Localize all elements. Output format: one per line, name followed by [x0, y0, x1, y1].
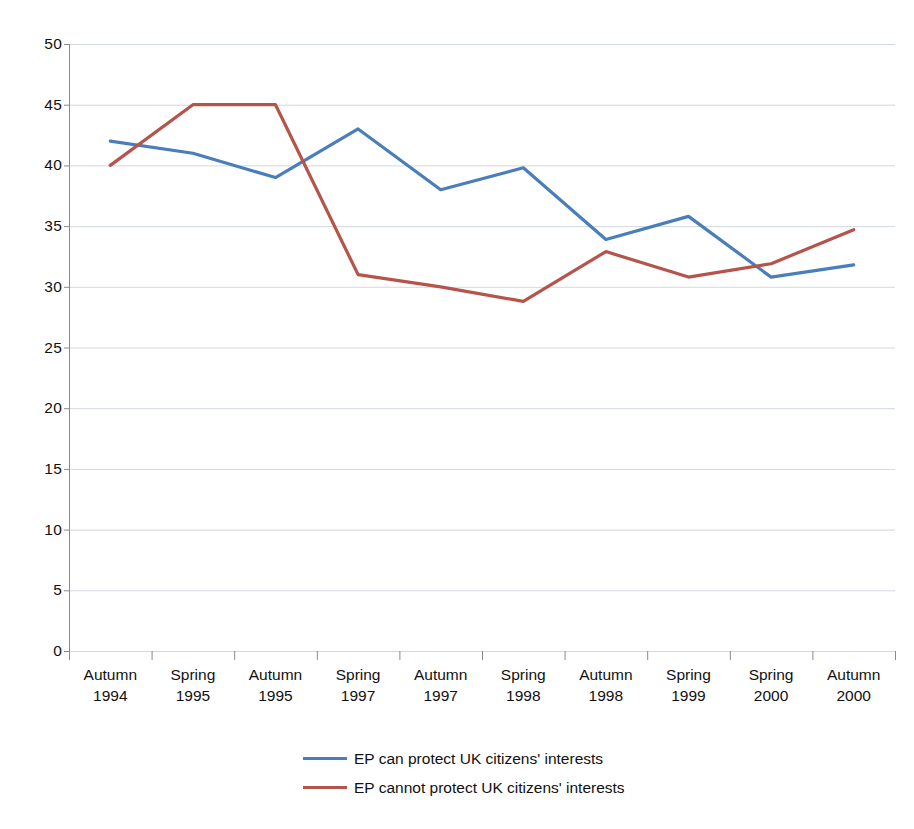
x-tick-label: Autumn1997 [399, 664, 482, 720]
y-tick-label: 5 [8, 581, 62, 599]
x-tick-label-line: 1994 [69, 685, 152, 706]
x-tick-label-line: Autumn [812, 664, 895, 685]
x-tick-label: Autumn2000 [812, 664, 895, 720]
x-tick-label-line: 1998 [482, 685, 565, 706]
plot-area [69, 44, 895, 651]
x-tick-label-line: Spring [152, 664, 235, 685]
x-tick-label-line: 1997 [399, 685, 482, 706]
x-tick-label: Spring1995 [152, 664, 235, 720]
y-tick-label: 0 [8, 642, 62, 660]
x-tick-label-line: Spring [317, 664, 400, 685]
y-tick-label: 45 [8, 96, 62, 114]
x-tick-label-line: 2000 [730, 685, 813, 706]
chart-legend: EP can protect UK citizens' interestsEP … [0, 744, 914, 802]
line-chart: 50454035302520151050 Autumn1994Spring199… [0, 0, 914, 829]
y-tick-label: 40 [8, 156, 62, 174]
x-tick-label-line: 2000 [812, 685, 895, 706]
x-tick-label-line: 1999 [647, 685, 730, 706]
x-tick-label: Spring1999 [647, 664, 730, 720]
y-tick-label: 20 [8, 399, 62, 417]
x-tick-label: Autumn1995 [234, 664, 317, 720]
x-axis: Autumn1994Spring1995Autumn1995Spring1997… [69, 664, 895, 720]
x-tick-label: Autumn1998 [565, 664, 648, 720]
x-tick-label: Spring1998 [482, 664, 565, 720]
x-tick-label: Autumn1994 [69, 664, 152, 720]
y-tick-label: 50 [8, 35, 62, 53]
x-tick-label-line: Autumn [234, 664, 317, 685]
y-tick-label: 25 [8, 339, 62, 357]
y-tick-label: 15 [8, 460, 62, 478]
legend-item[interactable]: EP can protect UK citizens' interests [0, 744, 914, 773]
series-line-2 [110, 105, 853, 302]
x-tick-label: Spring2000 [730, 664, 813, 720]
x-tick-label-line: Autumn [69, 664, 152, 685]
series-line-1 [110, 129, 853, 277]
legend-label: EP can protect UK citizens' interests [354, 750, 603, 768]
y-tick-label: 35 [8, 217, 62, 235]
legend-label: EP cannot protect UK citizens' interests [354, 779, 625, 797]
x-tick-label-line: 1998 [565, 685, 648, 706]
x-tick-label-line: 1997 [317, 685, 400, 706]
legend-item[interactable]: EP cannot protect UK citizens' interests [0, 773, 914, 802]
y-axis: 50454035302520151050 [0, 44, 62, 651]
legend-line-swatch [303, 757, 347, 760]
legend-line-swatch [303, 786, 347, 789]
y-tick-label: 30 [8, 278, 62, 296]
y-tick-label: 10 [8, 521, 62, 539]
x-tick-label: Spring1997 [317, 664, 400, 720]
data-series-layer [69, 44, 895, 651]
x-tick-label-line: Autumn [399, 664, 482, 685]
x-tick-label-line: Spring [730, 664, 813, 685]
x-tick-label-line: 1995 [234, 685, 317, 706]
x-tick-label-line: Spring [647, 664, 730, 685]
x-tick-label-line: 1995 [152, 685, 235, 706]
x-tick-label-line: Spring [482, 664, 565, 685]
x-tick-label-line: Autumn [565, 664, 648, 685]
